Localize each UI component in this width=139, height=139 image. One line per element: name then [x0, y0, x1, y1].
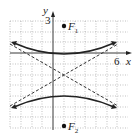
focus-f2-label: F2 [68, 121, 78, 135]
focus-f1-point [62, 24, 66, 28]
x-tick-label: 6 [114, 56, 120, 67]
focus-f1-label: F1 [68, 21, 78, 35]
y-axis-arrow-icon [51, 11, 55, 17]
focus-f2-point [62, 124, 66, 128]
grid [10, 21, 128, 128]
y-tick-label: 3 [45, 15, 51, 26]
x-axis-label: x [126, 56, 131, 67]
